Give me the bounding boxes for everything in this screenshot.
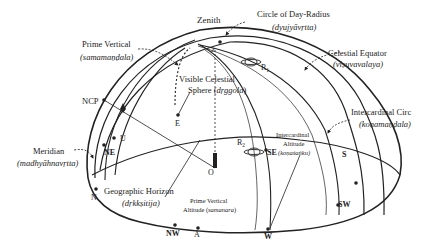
label-point-e: E	[175, 119, 180, 128]
label-point-n: N	[91, 193, 97, 202]
label-prime-vertical-sk: (samamaṇḍala)	[80, 52, 134, 62]
label-point-se: SE	[267, 148, 277, 157]
label-point-u: U	[120, 134, 126, 143]
label-intercardinal-altitude: Intercardinal	[276, 131, 309, 138]
label-day-radius-sk: (dyujyāvṛtta)	[272, 22, 317, 32]
label-visible-sphere-2: Sphere (dṛggola)	[188, 85, 246, 95]
label-day-radius: Circle of Day-Radius	[257, 9, 330, 19]
label-geographic-horizon: Geographic Horizon	[104, 186, 174, 196]
label-point-o: O	[208, 168, 214, 177]
label-point-ne: NE	[104, 148, 115, 157]
label-point-z: Z	[211, 46, 215, 54]
label-point-s: S	[342, 150, 347, 159]
label-zenith: Zenith	[197, 15, 221, 25]
label-intercardinal-altitude-sk: (koṇaśaṅku)	[278, 149, 310, 157]
label-visible-sphere: Visible Celestial	[179, 74, 236, 84]
label-meridian-sk: (madhyāhnavṛtta)	[17, 158, 79, 168]
label-ncp: NCP	[82, 96, 99, 106]
label-point-nw: NW	[166, 229, 180, 238]
label-prime-vertical: Prime Vertical	[82, 39, 131, 49]
celestial-sphere-diagram: Zenith Circle of Day-Radius (dyujyāvṛtta…	[0, 0, 421, 252]
label-pv-altitude: Prime Vertical	[190, 197, 227, 204]
label-point-r2: R2	[237, 138, 245, 148]
label-celestial-equator-sk: (viṣuvavalaya)	[333, 59, 383, 69]
label-intercardinal-circle: Intercardinal Circ	[351, 107, 411, 117]
label-point-a: A	[194, 230, 200, 239]
label-geographic-horizon-sk: (dṛkkṣitija)	[122, 198, 160, 208]
label-point-r1: R1	[261, 63, 269, 73]
label-point-sw: SW	[338, 200, 350, 209]
label-intercardinal-altitude-2: Altitude	[283, 140, 304, 147]
label-intercardinal-circle-sk: (koṇamaṇḍala)	[359, 119, 411, 129]
label-celestial-equator: Celestial Equator	[328, 48, 387, 58]
label-pv-altitude-2: Altitude (samanara)	[183, 206, 236, 214]
label-point-w: W	[264, 232, 272, 241]
label-meridian: Meridian	[33, 146, 65, 156]
